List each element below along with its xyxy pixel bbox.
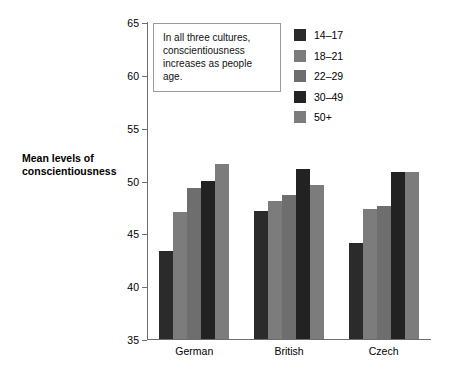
y-tick-mark <box>142 340 147 341</box>
chart-figure: Mean levels of conscientiousness 3540455… <box>0 0 458 375</box>
legend-item: 22–29 <box>294 66 374 87</box>
legend-item-label: 14–17 <box>314 29 343 41</box>
annotation-line-1: In all three cultures, <box>163 31 272 44</box>
bar <box>201 181 215 340</box>
bar <box>254 211 268 339</box>
y-tick-label: 45 <box>127 228 139 240</box>
legend-item: 14–17 <box>294 25 374 46</box>
x-axis-group-label: German <box>159 345 229 357</box>
legend-swatch-icon <box>294 91 306 103</box>
y-tick-label: 40 <box>127 281 139 293</box>
bar <box>349 243 363 339</box>
legend-item: 18–21 <box>294 46 374 67</box>
legend-item-label: 22–29 <box>314 70 343 82</box>
legend-swatch-icon <box>294 29 306 41</box>
bar <box>268 201 282 339</box>
y-tick-label: 50 <box>127 176 139 188</box>
y-tick-label: 35 <box>127 334 139 346</box>
x-axis-group-label: British <box>254 345 324 357</box>
legend-swatch-icon <box>294 50 306 62</box>
y-tick-label: 55 <box>127 123 139 135</box>
bar <box>310 185 324 339</box>
y-tick-label: 60 <box>127 70 139 82</box>
legend-item: 50+ <box>294 107 374 128</box>
legend-item-label: 18–21 <box>314 50 343 62</box>
bar <box>159 251 173 339</box>
legend-swatch-icon <box>294 70 306 82</box>
y-tick-label: 65 <box>127 17 139 29</box>
y-tick-mark <box>142 182 147 183</box>
annotation-line-2: conscientiousness <box>163 44 272 57</box>
y-axis-title-text: Mean levels of conscientiousness <box>22 152 117 177</box>
annotation-callout: In all three cultures, conscientiousness… <box>153 23 281 92</box>
x-axis-group-label: Czech <box>349 345 419 357</box>
bar <box>187 188 201 339</box>
legend: 14–1718–2122–2930–4950+ <box>294 25 374 128</box>
y-axis-line <box>147 22 148 340</box>
y-axis-title: Mean levels of conscientiousness <box>22 152 127 177</box>
bar <box>215 164 229 339</box>
legend-item-label: 50+ <box>314 111 332 123</box>
y-tick-mark <box>142 234 147 235</box>
y-tick-mark <box>142 76 147 77</box>
legend-item: 30–49 <box>294 87 374 108</box>
y-tick-mark <box>142 129 147 130</box>
bar <box>377 206 391 339</box>
bar <box>405 172 419 339</box>
legend-item-label: 30–49 <box>314 91 343 103</box>
legend-swatch-icon <box>294 111 306 123</box>
bar <box>282 195 296 339</box>
bar <box>173 212 187 339</box>
bar <box>391 172 405 339</box>
bar <box>296 169 310 339</box>
y-tick-mark <box>142 23 147 24</box>
bar <box>363 209 377 339</box>
x-axis-line <box>147 339 431 340</box>
annotation-line-3: increases as people age. <box>163 57 272 83</box>
y-tick-mark <box>142 287 147 288</box>
